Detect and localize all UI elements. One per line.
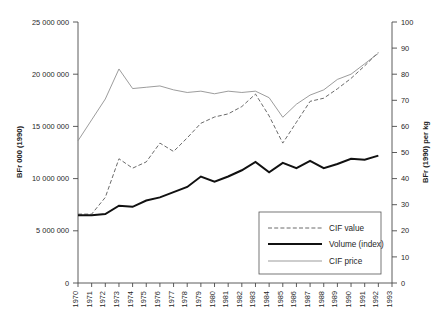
y-axis-right-tick-label: 80 [401,70,409,79]
legend-label-cif-price: CIF price [329,257,363,266]
y-axis-right-tick-label: 0 [401,279,405,288]
x-axis-tick-label: 1970 [71,291,80,307]
y-axis-left-tick-label: 0 [65,279,69,288]
legend-label-volume: Volume (index) [329,240,384,249]
x-axis-tick-label: 1973 [112,291,121,307]
x-axis-tick-label: 1985 [276,291,285,307]
y-axis-right-tick-label: 20 [401,226,409,235]
y-axis-left-tick-label: 25 000 000 [32,18,69,27]
series-line-cif-value [78,52,378,214]
y-axis-left-tick-label: 15 000 000 [32,122,69,131]
y-axis-right-tick-label: 70 [401,96,409,105]
x-axis-tick-label: 1990 [344,291,353,307]
x-axis-tick-label: 1993 [385,291,394,307]
x-axis-tick-label: 1971 [85,291,94,307]
x-axis-tick-label: 1976 [153,291,162,307]
series-line-cif-price [78,53,378,140]
x-axis-tick-label: 1987 [303,291,312,307]
x-axis-tick-label: 1984 [262,291,271,307]
x-axis-tick-label: 1979 [194,291,203,307]
x-axis-ticks: 1970197119721973197419751976197719781979… [71,283,394,307]
series-line-volume [78,156,378,216]
y-axis-right-ticks: 0102030405060708090100 [392,18,413,288]
y-axis-right-tick-label: 40 [401,174,409,183]
x-axis-tick-label: 1992 [371,291,380,307]
chart-figure: 05 000 00010 000 00015 000 00020 000 000… [0,0,443,331]
x-axis-tick-label: 1975 [139,291,148,307]
x-axis-tick-label: 1991 [358,291,367,307]
chart-legend: CIF value Volume (index) CIF price [259,212,384,274]
y-axis-right-tick-label: 50 [401,148,409,157]
x-axis-tick-label: 1980 [208,291,217,307]
y-axis-left-tick-label: 5 000 000 [36,226,69,235]
x-axis-tick-label: 1989 [330,291,339,307]
x-axis-tick-label: 1974 [126,291,135,307]
x-axis-tick-label: 1982 [235,291,244,307]
y-axis-right-tick-label: 30 [401,200,409,209]
x-axis-tick-label: 1986 [289,291,298,307]
x-axis-tick-label: 1981 [221,291,230,307]
line-chart-plot: 05 000 00010 000 00015 000 00020 000 000… [0,0,443,331]
x-axis-tick-label: 1983 [248,291,257,307]
y-axis-right-tick-label: 10 [401,253,409,262]
y-axis-left-tick-label: 20 000 000 [32,70,69,79]
y-axis-right-tick-label: 100 [401,18,413,27]
y-axis-left-tick-label: 10 000 000 [32,174,69,183]
x-axis-tick-label: 1988 [317,291,326,307]
x-axis-tick-label: 1977 [167,291,176,307]
legend-label-cif-value: CIF value [329,224,364,233]
x-axis-tick-label: 1972 [98,291,107,307]
y-axis-left-title: BFr 000 (1990) [15,126,24,178]
y-axis-right-title: BFr (1990) per kg [421,121,430,183]
y-axis-right-tick-label: 90 [401,44,409,53]
y-axis-right-tick-label: 60 [401,122,409,131]
x-axis-tick-label: 1978 [180,291,189,307]
y-axis-left-ticks: 05 000 00010 000 00015 000 00020 000 000… [32,18,78,288]
